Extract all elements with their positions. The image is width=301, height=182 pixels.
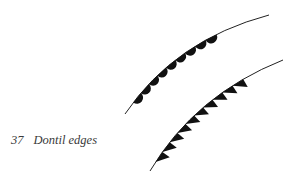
- scalloped-dontil-edge: [125, 15, 269, 114]
- triangle-tooth: [170, 133, 184, 142]
- triangle-tooth: [233, 79, 248, 87]
- triangle-tooth: [186, 116, 201, 124]
- figure-caption: 37Dontil edges: [11, 133, 97, 148]
- dontil-edges-figure: [0, 0, 301, 182]
- triangle-tooth: [177, 124, 192, 133]
- figure-caption-text: Dontil edges: [34, 133, 98, 147]
- top-curve-line: [125, 15, 269, 114]
- triangle-tooth: [222, 86, 237, 94]
- bottom-curve-line: [150, 60, 283, 171]
- triangle-tooth: [162, 142, 176, 152]
- figure-number: 37: [11, 133, 24, 147]
- triangle-tooth: [156, 152, 170, 162]
- triangular-dontil-edge: [150, 60, 283, 171]
- scallop-shapes: [133, 34, 217, 103]
